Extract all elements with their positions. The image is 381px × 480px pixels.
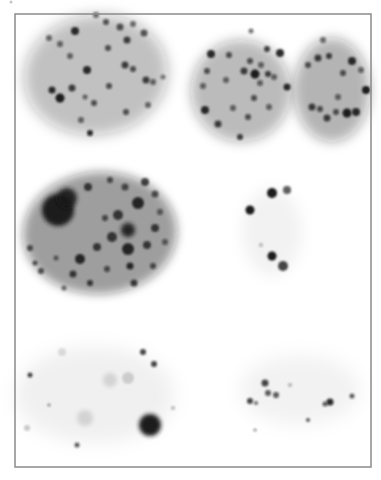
microscopy-figure	[0, 0, 381, 480]
focus-spot	[75, 443, 80, 448]
focus-spot	[122, 372, 134, 384]
focus-spot	[201, 106, 209, 114]
focus-spot	[141, 178, 149, 186]
focus-spot	[33, 261, 38, 266]
focus-spot	[93, 243, 101, 251]
focus-spot	[57, 41, 63, 47]
focus-spot	[157, 209, 163, 215]
focus-spot	[93, 12, 99, 18]
focus-spot	[107, 177, 113, 183]
nucleus-body	[242, 188, 302, 276]
focus-spot	[54, 256, 59, 261]
focus-spot	[247, 58, 253, 64]
focus-spot	[150, 263, 156, 269]
focus-spot	[139, 414, 161, 436]
focus-spot	[106, 83, 112, 89]
focus-spot	[38, 268, 44, 274]
focus-spot	[267, 188, 277, 198]
focus-spot	[122, 62, 129, 69]
focus-spot	[107, 232, 117, 242]
focus-spot	[71, 27, 79, 35]
focus-spot	[117, 24, 124, 31]
focus-spot	[200, 83, 206, 89]
focus-spot	[265, 71, 271, 77]
focus-spot	[305, 62, 311, 68]
focus-spot	[62, 286, 67, 291]
focus-spot	[223, 77, 229, 83]
focus-spot	[78, 117, 84, 123]
focus-spot	[87, 130, 93, 136]
focus-spot	[245, 114, 251, 120]
focus-spot	[333, 109, 339, 115]
focus-spot	[258, 62, 264, 68]
focus-spot	[87, 280, 93, 286]
focus-spot	[284, 84, 291, 91]
focus-spot	[130, 21, 136, 27]
focus-spot	[306, 418, 310, 422]
focus-spot	[251, 70, 260, 79]
focus-spot	[140, 349, 146, 355]
focus-spot	[143, 241, 151, 249]
focus-spot	[70, 271, 77, 278]
focus-spot	[56, 94, 65, 103]
scan-artifact	[10, 1, 13, 4]
focus-spot	[324, 115, 331, 122]
focus-spot	[309, 104, 316, 111]
focus-spot	[283, 186, 291, 194]
focus-spot	[69, 85, 76, 92]
focus-spot	[358, 67, 364, 73]
focus-spot	[57, 188, 77, 208]
focus-spot	[141, 30, 148, 37]
focus-spot	[123, 109, 129, 115]
focus-spot	[121, 223, 135, 237]
focus-spot	[28, 373, 33, 378]
focus-spot	[215, 121, 222, 128]
focus-spot	[161, 75, 166, 80]
nucleus-body	[294, 38, 370, 142]
focus-spot	[249, 29, 254, 34]
focus-spot	[75, 254, 85, 264]
focus-spot	[102, 215, 108, 221]
focus-spot	[145, 102, 151, 108]
focus-spot	[162, 239, 168, 245]
focus-spot	[326, 53, 332, 59]
focus-spot	[254, 401, 258, 405]
focus-spot	[246, 206, 255, 215]
focus-spot	[362, 86, 370, 94]
focus-spot	[278, 261, 288, 271]
focus-spot	[84, 183, 92, 191]
focus-spot	[268, 252, 277, 261]
focus-spot	[104, 266, 110, 272]
focus-spot	[91, 100, 97, 106]
focus-spot	[67, 53, 73, 59]
focus-spot	[264, 46, 270, 52]
focus-spot	[251, 95, 257, 101]
focus-spot	[335, 94, 341, 100]
focus-spot	[83, 66, 91, 74]
focus-spot	[124, 37, 131, 44]
focus-spot	[131, 280, 138, 287]
focus-spot	[340, 70, 346, 76]
focus-spot	[247, 398, 253, 404]
focus-spot	[122, 184, 129, 191]
focus-spot	[323, 402, 328, 407]
focus-spot	[327, 399, 334, 406]
focus-spot	[350, 394, 355, 399]
focus-spot	[152, 191, 159, 198]
focus-spot	[257, 80, 263, 86]
focus-spot	[171, 406, 175, 410]
focus-spot	[262, 380, 269, 387]
artifact-layer	[10, 1, 13, 4]
focus-spot	[83, 95, 88, 100]
focus-spot	[226, 52, 232, 58]
focus-spot	[58, 348, 66, 356]
focus-spot	[103, 19, 109, 25]
focus-spot	[352, 108, 360, 116]
focus-spot	[24, 425, 30, 431]
nucleus-body	[240, 355, 360, 425]
focus-spot	[27, 245, 33, 251]
focus-spot	[48, 404, 51, 407]
focus-spot	[265, 390, 271, 396]
nucleus-body	[191, 40, 291, 142]
focus-spot	[127, 263, 134, 270]
